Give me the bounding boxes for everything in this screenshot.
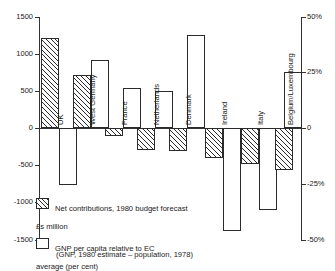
left-axis-tick-label: 0 [2, 124, 33, 132]
left-axis-tick-label: -500 [2, 161, 33, 169]
bar-net-contribution-italy [241, 128, 259, 164]
chart-footnote: (GNP, 1980 estimate – population, 1978) [56, 250, 193, 259]
left-axis-tick-label: -1500 [2, 236, 33, 244]
bar-net-contribution-france [105, 128, 123, 136]
bar-net-contribution-ireland [205, 128, 223, 158]
right-axis-tick-label: -25% [307, 180, 325, 188]
left-axis-tick-label: 1500 [2, 13, 33, 21]
category-label-italy: Italy [257, 111, 265, 125]
left-axis-tick [35, 54, 39, 55]
right-axis-tick-label: 25% [307, 68, 322, 76]
right-axis-tick [302, 72, 306, 73]
category-label-denmark: Denmark [185, 94, 193, 125]
category-label-uk: UK [57, 114, 65, 125]
category-label-ireland: Ireland [221, 102, 229, 125]
category-label-west-germany: West Germany [89, 75, 97, 126]
legend-swatch-open-icon [36, 238, 49, 249]
right-axis-tick-label: -50% [307, 236, 325, 244]
chart-container: 1500 1000 500 0 -500 -1000 -1500 50% 25%… [0, 0, 335, 271]
right-axis-tick [302, 128, 306, 129]
right-axis-tick-label: 50% [307, 13, 322, 21]
left-axis-tick-label: 1000 [2, 50, 33, 58]
left-axis-tick-label: -1000 [2, 198, 33, 206]
bar-net-contribution-denmark [169, 128, 187, 151]
category-label-netherlands: Netherlands [153, 84, 161, 125]
left-axis-tick [35, 165, 39, 166]
right-axis-tick-label: 0 [307, 124, 311, 132]
right-axis-tick [302, 184, 306, 185]
right-axis-tick [302, 17, 306, 18]
bar-gnp-per-capita-uk [59, 128, 77, 185]
left-axis-tick-label: 500 [2, 87, 33, 95]
right-axis-tick [302, 240, 306, 241]
right-axis-line [301, 17, 302, 241]
left-axis-tick [35, 128, 39, 129]
category-label-france: France [121, 101, 129, 125]
left-axis-tick [35, 17, 39, 18]
legend-label-net-contributions: Net contributions, 1980 budget forecast … [36, 204, 188, 231]
category-label-belgium-luxembourg: Belgium/Luxembourg [287, 53, 295, 125]
legend-item-net-contributions: Net contributions, 1980 budget forecast … [36, 197, 236, 233]
bar-net-contribution-belgium-luxembourg [275, 128, 293, 170]
bar-net-contribution-netherlands [137, 128, 155, 150]
left-axis-tick [35, 91, 39, 92]
legend-swatch-hatched-icon [36, 198, 49, 209]
chart-legend: Net contributions, 1980 budget forecast … [36, 197, 236, 271]
